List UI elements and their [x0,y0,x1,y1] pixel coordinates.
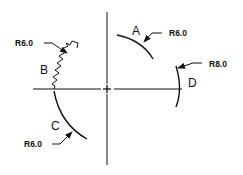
break-line-b-label: B [40,63,48,77]
arc-d-label: D [188,76,197,90]
arc-d: D R8.0 [176,59,227,107]
arc-d-curve [176,66,180,107]
break-line-b-dimension: R6.0 [15,38,33,48]
break-line-b: B R6.0 [15,38,78,89]
arc-c: C R6.0 [24,91,87,149]
center-mark-icon [103,85,111,93]
arc-d-leader [178,63,202,68]
arc-a-label: A [132,24,140,38]
arc-a-dimension: R6.0 [169,28,187,38]
arc-a: A R6.0 [117,24,187,59]
break-line-b-zigzag [52,41,78,89]
arc-c-leader [52,132,72,144]
radius-diagram: A R6.0 B R6.0 C R6.0 D R8.0 [0,0,243,175]
arc-d-dimension: R8.0 [209,59,227,69]
arc-c-label: C [51,119,60,133]
arc-c-dimension: R6.0 [24,139,42,149]
drawing-canvas: A R6.0 B R6.0 C R6.0 D R8.0 [0,0,243,175]
arc-a-leader [144,33,162,42]
